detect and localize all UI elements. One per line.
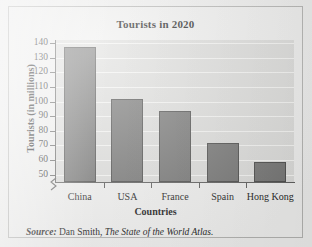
x-axis-line xyxy=(55,182,295,183)
y-axis-tick xyxy=(50,43,56,44)
x-axis-label-spain: Spain xyxy=(199,191,247,202)
y-axis-tick xyxy=(50,160,56,161)
x-axis-tick xyxy=(151,182,152,188)
plot-area xyxy=(56,40,294,182)
y-axis-tick xyxy=(50,102,56,103)
chart-title: Tourists in 2020 xyxy=(9,18,302,30)
x-axis-tick xyxy=(104,182,105,188)
x-axis-label-france: France xyxy=(151,191,199,202)
source-label: Source: xyxy=(26,227,57,237)
y-axis-tick xyxy=(50,145,56,146)
x-axis-label-usa: USA xyxy=(104,191,152,202)
y-axis-tick xyxy=(50,58,56,59)
y-axis-tick xyxy=(50,72,56,73)
x-axis-tick xyxy=(246,182,247,188)
y-axis-tick xyxy=(50,131,56,132)
bar-china xyxy=(64,47,96,182)
source-work: The State of the World Atlas. xyxy=(105,227,214,237)
gridline xyxy=(56,43,294,44)
axis-break-icon xyxy=(49,175,63,191)
x-axis-title: Countries xyxy=(9,206,302,217)
y-axis-tick xyxy=(50,116,56,117)
y-axis-tick xyxy=(50,87,56,88)
source-note: Source: Dan Smith, The State of the Worl… xyxy=(26,227,213,237)
chart-figure: Tourists in 2020 14013012011010090807060… xyxy=(0,0,312,247)
x-axis-label-china: China xyxy=(56,191,104,202)
bar-france xyxy=(159,111,191,182)
x-axis-label-hong-kong: Hong Kong xyxy=(246,191,294,202)
source-author: Dan Smith, xyxy=(59,227,102,237)
y-axis-title: Tourists (in millions) xyxy=(25,44,36,174)
bar-hong-kong xyxy=(254,162,286,182)
x-axis-tick xyxy=(199,182,200,188)
figure-frame: Tourists in 2020 14013012011010090807060… xyxy=(8,6,303,238)
bar-spain xyxy=(207,143,239,182)
bar-usa xyxy=(111,99,143,182)
